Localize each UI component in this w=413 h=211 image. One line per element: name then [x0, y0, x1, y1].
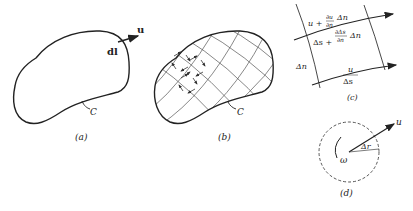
radius-label-dr: Δr: [360, 142, 372, 151]
caption-d: (d): [340, 188, 353, 198]
caption-c: (c): [347, 93, 358, 102]
panel-c: u + ∂u ∂n Δn Δs + ∂Δs ∂n Δn Δn u Δs (c): [294, 4, 396, 102]
rotation-label-omega: ω: [340, 155, 348, 165]
svg-text:Δn: Δn: [336, 13, 348, 22]
bottom-length-ds: Δs: [343, 77, 353, 86]
panel-b: C (b): [150, 22, 300, 142]
caption-b: (b): [218, 132, 231, 142]
svg-text:∂n: ∂n: [337, 36, 344, 43]
velocity-vector-u-d: [349, 124, 394, 152]
curve-label-c-b: C: [237, 107, 244, 117]
svg-text:∂n: ∂n: [326, 21, 333, 28]
closed-curve-c: [14, 31, 130, 124]
figure-canvas: u dl C (a): [0, 0, 413, 211]
orthogonal-grid: [150, 22, 300, 135]
element-label-dl: dl: [107, 46, 118, 57]
side-label-dn: Δn: [295, 62, 307, 71]
curve-label-c: C: [90, 107, 97, 117]
normal-line-right: [364, 5, 385, 70]
panel-a: u dl C (a): [14, 24, 145, 142]
vector-label-u: u: [137, 24, 144, 35]
svg-text:Δn: Δn: [349, 31, 361, 40]
top-velocity-expr: u + ∂u ∂n Δn: [308, 13, 348, 28]
bottom-velocity-u: u: [348, 65, 353, 74]
closed-curve-c-b: [155, 31, 274, 124]
vector-label-u-d: u: [396, 117, 402, 127]
svg-text:u +: u +: [308, 19, 322, 28]
svg-text:Δs +: Δs +: [313, 38, 332, 47]
leader-line-b: [228, 102, 236, 109]
caption-a: (a): [75, 132, 88, 142]
panel-d: ω u Δr (d): [319, 117, 402, 198]
svg-text:∂Δs: ∂Δs: [335, 28, 346, 35]
svg-text:∂u: ∂u: [326, 13, 333, 20]
